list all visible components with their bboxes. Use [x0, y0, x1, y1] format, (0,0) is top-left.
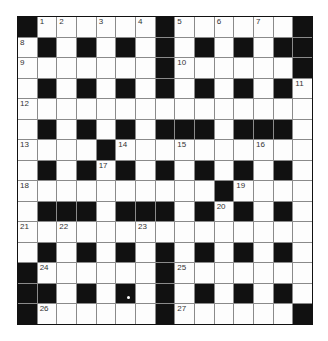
answer-cell[interactable]	[254, 79, 273, 99]
answer-cell[interactable]	[116, 17, 135, 37]
answer-cell[interactable]	[77, 99, 96, 119]
answer-cell[interactable]: 2	[57, 17, 76, 37]
answer-cell[interactable]: 3	[97, 17, 116, 37]
answer-cell[interactable]	[97, 99, 116, 119]
answer-cell[interactable]	[175, 222, 194, 242]
answer-cell[interactable]	[215, 99, 234, 119]
answer-cell[interactable]	[215, 304, 234, 324]
answer-cell[interactable]	[274, 181, 293, 201]
answer-cell[interactable]	[274, 58, 293, 78]
answer-cell[interactable]	[136, 284, 155, 304]
answer-cell[interactable]	[97, 222, 116, 242]
answer-cell[interactable]	[254, 58, 273, 78]
answer-cell[interactable]	[274, 304, 293, 324]
answer-cell[interactable]: 22	[57, 222, 76, 242]
answer-cell[interactable]	[136, 79, 155, 99]
answer-cell[interactable]	[195, 304, 214, 324]
answer-cell[interactable]	[293, 243, 312, 263]
answer-cell[interactable]	[38, 181, 57, 201]
answer-cell[interactable]	[195, 17, 214, 37]
answer-cell[interactable]	[175, 181, 194, 201]
answer-cell[interactable]	[57, 120, 76, 140]
answer-cell[interactable]	[175, 284, 194, 304]
answer-cell[interactable]	[136, 120, 155, 140]
answer-cell[interactable]	[293, 120, 312, 140]
answer-cell[interactable]	[274, 99, 293, 119]
answer-cell[interactable]: 11	[293, 79, 312, 99]
answer-cell[interactable]	[215, 120, 234, 140]
answer-cell[interactable]	[254, 181, 273, 201]
answer-cell[interactable]	[57, 99, 76, 119]
answer-cell[interactable]: 14	[116, 140, 135, 160]
answer-cell[interactable]	[175, 161, 194, 181]
answer-cell[interactable]	[293, 161, 312, 181]
answer-cell[interactable]	[215, 243, 234, 263]
answer-cell[interactable]: 10	[175, 58, 194, 78]
answer-cell[interactable]	[254, 222, 273, 242]
answer-cell[interactable]	[116, 58, 135, 78]
answer-cell[interactable]	[254, 284, 273, 304]
answer-cell[interactable]: 8	[18, 38, 37, 58]
answer-cell[interactable]	[234, 222, 253, 242]
answer-cell[interactable]	[274, 222, 293, 242]
answer-cell[interactable]	[57, 304, 76, 324]
answer-cell[interactable]	[38, 99, 57, 119]
answer-cell[interactable]: 5	[175, 17, 194, 37]
answer-cell[interactable]: 21	[18, 222, 37, 242]
answer-cell[interactable]	[116, 263, 135, 283]
answer-cell[interactable]	[234, 140, 253, 160]
answer-cell[interactable]	[156, 222, 175, 242]
answer-cell[interactable]	[175, 243, 194, 263]
answer-cell[interactable]	[156, 99, 175, 119]
answer-cell[interactable]	[77, 58, 96, 78]
answer-cell[interactable]	[77, 17, 96, 37]
answer-cell[interactable]	[175, 99, 194, 119]
answer-cell[interactable]	[57, 38, 76, 58]
answer-cell[interactable]: 27	[175, 304, 194, 324]
answer-cell[interactable]	[195, 140, 214, 160]
answer-cell[interactable]	[136, 243, 155, 263]
answer-cell[interactable]	[38, 140, 57, 160]
answer-cell[interactable]: 13	[18, 140, 37, 160]
answer-cell[interactable]	[57, 161, 76, 181]
answer-cell[interactable]	[116, 181, 135, 201]
answer-cell[interactable]	[234, 17, 253, 37]
answer-cell[interactable]	[136, 38, 155, 58]
answer-cell[interactable]	[293, 284, 312, 304]
answer-cell[interactable]	[97, 79, 116, 99]
answer-cell[interactable]	[136, 161, 155, 181]
answer-cell[interactable]	[97, 284, 116, 304]
answer-cell[interactable]	[254, 202, 273, 222]
answer-cell[interactable]	[18, 79, 37, 99]
answer-cell[interactable]	[274, 17, 293, 37]
answer-cell[interactable]	[175, 38, 194, 58]
answer-cell[interactable]	[38, 58, 57, 78]
answer-cell[interactable]	[57, 284, 76, 304]
answer-cell[interactable]	[97, 263, 116, 283]
answer-cell[interactable]	[77, 140, 96, 160]
answer-cell[interactable]	[38, 222, 57, 242]
answer-cell[interactable]	[195, 181, 214, 201]
answer-cell[interactable]	[234, 263, 253, 283]
answer-cell[interactable]	[136, 263, 155, 283]
answer-cell[interactable]	[254, 263, 273, 283]
answer-cell[interactable]	[254, 304, 273, 324]
answer-cell[interactable]	[274, 140, 293, 160]
answer-cell[interactable]: 15	[175, 140, 194, 160]
answer-cell[interactable]	[293, 181, 312, 201]
answer-cell[interactable]	[57, 79, 76, 99]
answer-cell[interactable]	[18, 202, 37, 222]
answer-cell[interactable]	[97, 243, 116, 263]
answer-cell[interactable]	[293, 263, 312, 283]
answer-cell[interactable]: 18	[18, 181, 37, 201]
answer-cell[interactable]	[57, 243, 76, 263]
answer-cell[interactable]: 6	[215, 17, 234, 37]
answer-cell[interactable]	[136, 304, 155, 324]
answer-cell[interactable]	[97, 181, 116, 201]
answer-cell[interactable]	[116, 99, 135, 119]
answer-cell[interactable]	[175, 202, 194, 222]
answer-cell[interactable]	[215, 58, 234, 78]
answer-cell[interactable]: 12	[18, 99, 37, 119]
answer-cell[interactable]	[156, 181, 175, 201]
answer-cell[interactable]	[156, 140, 175, 160]
